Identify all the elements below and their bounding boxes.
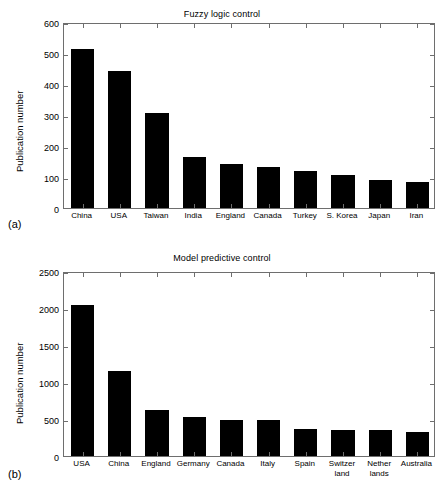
panel-b: Model predictive control (b) Publication… bbox=[0, 246, 444, 493]
x-tick-mark bbox=[269, 204, 270, 208]
x-tick-mark bbox=[417, 204, 418, 208]
x-tick-mark bbox=[120, 204, 121, 208]
x-tick-label-line: lands bbox=[356, 469, 403, 479]
y-tick-mark bbox=[430, 310, 434, 311]
x-tick-mark bbox=[343, 24, 344, 28]
x-tick-mark bbox=[157, 273, 158, 277]
bar bbox=[108, 71, 131, 208]
bar bbox=[183, 157, 206, 208]
x-tick-mark bbox=[417, 452, 418, 456]
y-tick-mark bbox=[430, 86, 434, 87]
x-tick-mark bbox=[269, 452, 270, 456]
bar bbox=[220, 164, 243, 208]
x-tick-mark bbox=[306, 273, 307, 277]
y-tick-mark bbox=[64, 384, 68, 385]
y-tick-label: 600 bbox=[44, 19, 64, 29]
x-tick-mark bbox=[120, 452, 121, 456]
x-tick-mark bbox=[380, 273, 381, 277]
y-axis-label-a: Publication number bbox=[14, 91, 25, 172]
y-axis-label-b: Publication number bbox=[14, 343, 25, 424]
y-tick-mark bbox=[64, 55, 68, 56]
bar bbox=[257, 420, 280, 456]
panel-a: Fuzzy logic control (a) Publication numb… bbox=[0, 0, 444, 246]
chart-title-b: Model predictive control bbox=[0, 253, 444, 263]
y-tick-label: 2000 bbox=[39, 305, 64, 315]
bar bbox=[108, 371, 131, 456]
x-tick-mark bbox=[380, 204, 381, 208]
bar bbox=[220, 420, 243, 456]
y-tick-label: 1500 bbox=[39, 342, 64, 352]
bar bbox=[257, 167, 280, 208]
y-tick-label: 500 bbox=[44, 50, 64, 60]
bar bbox=[145, 410, 168, 456]
y-tick-mark bbox=[64, 179, 68, 180]
bar bbox=[71, 49, 94, 208]
x-tick-mark bbox=[120, 24, 121, 28]
y-tick-mark bbox=[64, 24, 68, 25]
bar bbox=[294, 171, 317, 209]
y-tick-mark bbox=[64, 310, 68, 311]
x-tick-mark bbox=[157, 452, 158, 456]
bar bbox=[331, 175, 354, 208]
x-tick-mark bbox=[306, 452, 307, 456]
plot-area-b: 05001000150020002500 bbox=[63, 272, 435, 457]
x-tick-mark bbox=[194, 204, 195, 208]
y-tick-mark bbox=[430, 24, 434, 25]
panel-label-b: (b) bbox=[8, 468, 21, 480]
x-tick-mark bbox=[231, 273, 232, 277]
bar-series-b bbox=[64, 273, 434, 456]
x-tick-mark bbox=[343, 204, 344, 208]
y-tick-mark bbox=[64, 148, 68, 149]
x-tick-label: Iran bbox=[393, 211, 440, 221]
y-tick-mark bbox=[430, 384, 434, 385]
x-tick-mark bbox=[157, 204, 158, 208]
x-tick-mark bbox=[380, 452, 381, 456]
y-tick-label: 100 bbox=[44, 174, 64, 184]
y-tick-mark bbox=[64, 421, 68, 422]
y-tick-mark bbox=[430, 117, 434, 118]
x-tick-mark bbox=[231, 452, 232, 456]
figure-two-bar-charts: Fuzzy logic control (a) Publication numb… bbox=[0, 0, 444, 493]
x-tick-mark bbox=[83, 24, 84, 28]
x-tick-label-line: Australia bbox=[393, 459, 440, 469]
chart-title-a: Fuzzy logic control bbox=[0, 9, 444, 19]
y-tick-label: 200 bbox=[44, 143, 64, 153]
y-tick-mark bbox=[430, 55, 434, 56]
x-tick-mark bbox=[83, 204, 84, 208]
bar bbox=[71, 305, 94, 456]
x-tick-mark bbox=[417, 273, 418, 277]
x-tick-mark bbox=[194, 452, 195, 456]
x-tick-mark bbox=[231, 204, 232, 208]
y-tick-mark bbox=[430, 421, 434, 422]
panel-label-a: (a) bbox=[8, 218, 21, 230]
x-tick-mark bbox=[231, 24, 232, 28]
y-tick-mark bbox=[64, 117, 68, 118]
y-tick-mark bbox=[430, 148, 434, 149]
y-tick-mark bbox=[430, 179, 434, 180]
x-tick-mark bbox=[83, 273, 84, 277]
plot-area-a: 0100200300400500600 bbox=[63, 23, 435, 209]
y-tick-label: 2500 bbox=[39, 268, 64, 278]
y-tick-mark bbox=[430, 273, 434, 274]
y-tick-mark bbox=[64, 86, 68, 87]
x-tick-mark bbox=[306, 204, 307, 208]
y-tick-label: 300 bbox=[44, 112, 64, 122]
y-tick-label: 500 bbox=[44, 416, 64, 426]
x-tick-mark bbox=[417, 24, 418, 28]
x-tick-label-line: Iran bbox=[393, 211, 440, 221]
x-tick-mark bbox=[194, 24, 195, 28]
bar bbox=[145, 113, 168, 208]
x-tick-mark bbox=[120, 273, 121, 277]
x-tick-mark bbox=[343, 452, 344, 456]
y-tick-label: 400 bbox=[44, 81, 64, 91]
x-tick-mark bbox=[83, 452, 84, 456]
y-tick-mark bbox=[64, 273, 68, 274]
y-tick-mark bbox=[430, 347, 434, 348]
y-tick-mark bbox=[64, 347, 68, 348]
x-tick-mark bbox=[157, 24, 158, 28]
x-tick-label: Australia bbox=[393, 459, 440, 469]
bar bbox=[183, 417, 206, 456]
y-tick-label: 1000 bbox=[39, 379, 64, 389]
x-tick-mark bbox=[269, 24, 270, 28]
x-tick-mark bbox=[380, 24, 381, 28]
